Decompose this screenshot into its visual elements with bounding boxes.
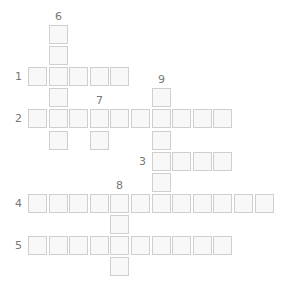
grid-cell[interactable]	[193, 109, 212, 128]
grid-cell[interactable]	[28, 67, 47, 86]
grid-cell[interactable]	[49, 88, 68, 107]
grid-cell[interactable]	[131, 194, 150, 213]
grid-cell[interactable]	[213, 236, 232, 255]
grid-cell[interactable]	[90, 236, 109, 255]
clue-number-across-1: 1	[9, 71, 28, 82]
grid-cell[interactable]	[131, 109, 150, 128]
grid-cell[interactable]	[172, 236, 191, 255]
grid-cell[interactable]	[152, 236, 171, 255]
clue-number-down-7: 7	[90, 95, 109, 106]
grid-cell[interactable]	[152, 88, 171, 107]
grid-cell[interactable]	[49, 236, 68, 255]
grid-cell[interactable]	[213, 194, 232, 213]
grid-cell[interactable]	[255, 194, 274, 213]
grid-cell[interactable]	[110, 109, 129, 128]
clue-number-across-4: 4	[9, 198, 28, 209]
grid-cell[interactable]	[110, 215, 129, 234]
grid-cell[interactable]	[90, 109, 109, 128]
grid-cell[interactable]	[110, 257, 129, 276]
grid-cell[interactable]	[152, 152, 171, 171]
grid-cell[interactable]	[49, 131, 68, 150]
clue-number-across-2: 2	[9, 113, 28, 124]
grid-cell[interactable]	[213, 109, 232, 128]
grid-cell[interactable]	[90, 194, 109, 213]
grid-cell[interactable]	[49, 25, 68, 44]
grid-cell[interactable]	[172, 109, 191, 128]
grid-cell[interactable]	[152, 131, 171, 150]
grid-cell[interactable]	[152, 173, 171, 192]
grid-cell[interactable]	[152, 194, 171, 213]
grid-cell[interactable]	[49, 67, 68, 86]
grid-cell[interactable]	[28, 194, 47, 213]
grid-cell[interactable]	[49, 46, 68, 65]
grid-cell[interactable]	[49, 194, 68, 213]
grid-cell[interactable]	[110, 194, 129, 213]
grid-cell[interactable]	[28, 236, 47, 255]
grid-cell[interactable]	[69, 194, 88, 213]
clue-number-down-8: 8	[110, 180, 129, 191]
grid-cell[interactable]	[69, 109, 88, 128]
crossword-grid: 123456789	[0, 0, 287, 293]
clue-number-down-6: 6	[49, 11, 68, 22]
grid-cell[interactable]	[193, 194, 212, 213]
grid-cell[interactable]	[49, 109, 68, 128]
grid-cell[interactable]	[234, 194, 253, 213]
clue-number-across-5: 5	[9, 240, 28, 251]
grid-cell[interactable]	[131, 236, 150, 255]
grid-cell[interactable]	[172, 152, 191, 171]
grid-cell[interactable]	[90, 67, 109, 86]
grid-cell[interactable]	[110, 67, 129, 86]
grid-cell[interactable]	[193, 152, 212, 171]
grid-cell[interactable]	[28, 109, 47, 128]
clue-number-down-9: 9	[152, 74, 171, 85]
grid-cell[interactable]	[172, 194, 191, 213]
grid-cell[interactable]	[193, 236, 212, 255]
grid-cell[interactable]	[152, 109, 171, 128]
grid-cell[interactable]	[69, 236, 88, 255]
grid-cell[interactable]	[213, 152, 232, 171]
grid-cell[interactable]	[90, 131, 109, 150]
grid-cell[interactable]	[69, 67, 88, 86]
grid-cell[interactable]	[110, 236, 129, 255]
clue-number-across-3: 3	[133, 156, 152, 167]
